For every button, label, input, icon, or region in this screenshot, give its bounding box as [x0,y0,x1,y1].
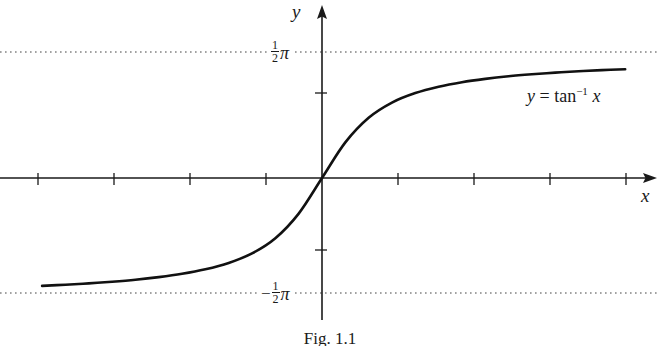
fraction-denominator: 2 [272,293,280,305]
equation-x-variable: x [592,86,600,106]
fraction-one-half: 12 [272,280,280,305]
x-axis-ticks [38,173,626,185]
figure-arctangent-graph: y x 12π −12π y = tan−1 x Fig. 1.1 [0,0,660,346]
equation-function-name: tan [554,86,576,106]
plot-canvas [0,0,660,346]
equation-exponent: −1 [576,85,588,97]
tick-label-upper-asymptote: 12π [267,40,292,65]
fraction-numerator: 1 [272,280,280,293]
fraction-denominator: 2 [271,52,279,64]
tick-label-sign: − [261,284,271,303]
fraction-numerator: 1 [271,39,279,52]
pi-symbol: π [281,284,290,304]
figure-caption: Fig. 1.1 [0,330,660,346]
tick-label-lower-asymptote: −12π [258,281,293,306]
equation-equals-sign: = [540,86,550,106]
curve-equation-annotation: y = tan−1 x [527,86,600,105]
pi-symbol: π [280,43,289,63]
fraction-one-half: 12 [271,39,279,64]
y-axis-label: y [292,2,300,21]
x-axis-label: x [641,186,649,205]
equation-y-variable: y [527,86,535,106]
